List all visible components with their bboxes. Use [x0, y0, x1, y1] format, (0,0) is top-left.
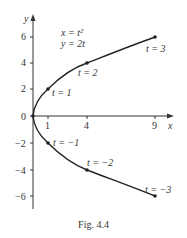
- point-t0: [31, 114, 35, 118]
- x-axis-arrow-icon: [167, 114, 174, 119]
- y-tick-label: −6: [15, 191, 26, 202]
- y-tick-label: 0: [21, 111, 26, 122]
- y-axis-arrow-icon: [31, 14, 36, 21]
- y-tick-label: 2: [21, 83, 26, 94]
- point-label: t = −3: [145, 184, 171, 195]
- point-tm2: [85, 168, 89, 172]
- y-axis-label: y: [23, 13, 29, 24]
- figure-caption: Fig. 4.4: [0, 219, 187, 230]
- x-axis-label: x: [167, 120, 173, 131]
- point-tm1: [46, 141, 50, 145]
- y-tick-label: 6: [21, 31, 26, 42]
- point-label: t = 1: [52, 87, 72, 98]
- point-t2: [85, 61, 89, 65]
- x-tick-label: 9: [152, 120, 157, 131]
- equation-y: y = 2t: [60, 38, 85, 49]
- x-tick-label: 4: [84, 120, 89, 131]
- point-t1: [46, 87, 50, 91]
- point-label: t = 2: [78, 67, 98, 78]
- y-tick-label: −4: [15, 165, 26, 176]
- equation-x: x = t²: [60, 27, 84, 38]
- point-label: t = 3: [146, 43, 166, 54]
- point-label: t = −2: [87, 157, 113, 168]
- y-tick-label: 4: [21, 57, 26, 68]
- parametric-plot: y 6 4 2 0 −2 −4 −6 1 4 9 x x = t² y = 2t…: [0, 0, 187, 238]
- point-t3: [153, 35, 157, 39]
- x-tick-label: 1: [45, 120, 50, 131]
- point-label: t = −1: [53, 137, 79, 148]
- y-tick-label: −2: [15, 138, 26, 149]
